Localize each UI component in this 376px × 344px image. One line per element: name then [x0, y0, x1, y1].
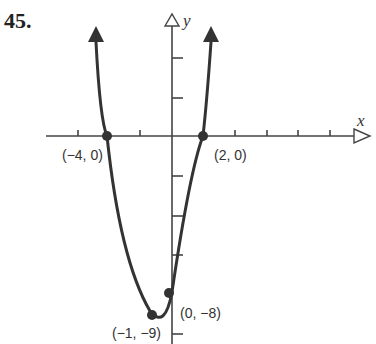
y-axis [172, 26, 183, 344]
label-0-neg8: (0, −8) [180, 305, 221, 321]
label-neg1-neg9: (−1, −9) [112, 325, 161, 341]
y-axis-arrow-icon [165, 14, 179, 26]
parabola-curve [96, 42, 211, 317]
point-2-0 [198, 131, 208, 141]
y-axis-label: y [181, 11, 191, 30]
point-neg1-neg9 [147, 310, 157, 320]
x-axis-label: x [356, 111, 365, 130]
point-neg4-0 [102, 131, 112, 141]
parabola-graph: y x (−4, 0) (2, 0) (0, −8) (−1, −9) [0, 0, 376, 344]
x-axis-arrow-icon [354, 129, 370, 143]
curve-arrow-left-icon [88, 26, 104, 42]
curve-arrow-right-icon [203, 26, 219, 42]
point-0-neg8 [164, 288, 174, 298]
label-neg4-0: (−4, 0) [62, 147, 103, 163]
label-2-0: (2, 0) [214, 147, 247, 163]
